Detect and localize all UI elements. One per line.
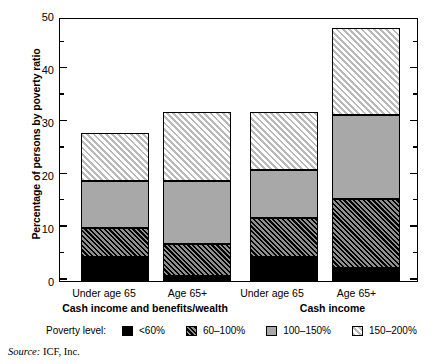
bar-segment-100-150	[332, 115, 400, 200]
bar-segment-under-60	[163, 276, 231, 281]
y-tick-minor-right-25	[413, 146, 417, 147]
y-tick-minor-right-35	[413, 93, 417, 94]
y-tick-minor-15	[60, 199, 64, 200]
x-group-label-cash-income-benefits-wealth: Cash income and benefits/wealth	[35, 302, 255, 314]
y-tick-major-right-40	[410, 67, 417, 68]
source-prefix: Source:	[8, 346, 40, 357]
y-tick-minor-5	[60, 252, 64, 253]
y-tick-major-right-10	[410, 225, 417, 226]
y-tick-major-right-0	[410, 278, 417, 279]
y-tick-major-30	[60, 120, 67, 121]
bar-segment-60-100	[332, 199, 400, 268]
legend-item-100-150[interactable]: 100–150%	[266, 325, 331, 336]
y-tick-label-20: 20	[28, 171, 54, 181]
y-tick-minor-45	[60, 41, 64, 42]
y-tick-major-40	[60, 67, 67, 68]
bar-segment-60-100	[81, 228, 149, 257]
legend-item-60-100[interactable]: 60–100%	[186, 325, 245, 336]
y-tick-label-10: 10	[28, 224, 54, 234]
x-tick-label-group2-under65: Under age 65	[222, 287, 322, 299]
y-tick-label-50: 50	[28, 12, 54, 22]
source-text: ICF, Inc.	[40, 346, 79, 357]
y-tick-minor-35	[60, 93, 64, 94]
legend-swatch-icon-100-150	[266, 326, 277, 336]
bar-segment-100-150	[250, 170, 318, 218]
legend: Poverty level: <60% 60–100% 100–150% 150…	[46, 325, 436, 336]
bar-group1-under65	[81, 133, 149, 281]
y-tick-label-0: 0	[28, 277, 54, 287]
source-note: Source: ICF, Inc.	[8, 346, 80, 357]
legend-title: Poverty level:	[46, 325, 106, 336]
bar-segment-100-150	[81, 181, 149, 229]
bar-segment-under-60	[332, 268, 400, 281]
bar-group2-under65	[250, 112, 318, 281]
legend-swatch-icon-60-100	[186, 326, 197, 336]
legend-label-under-60: <60%	[139, 325, 165, 336]
y-tick-minor-right-45	[413, 41, 417, 42]
bar-segment-60-100	[163, 244, 231, 276]
legend-swatch-icon-under-60	[122, 326, 133, 336]
y-tick-major-20	[60, 173, 67, 174]
y-tick-minor-25	[60, 146, 64, 147]
x-tick-label-group1-65plus: Age 65+	[140, 287, 235, 299]
bar-segment-100-150	[163, 181, 231, 244]
x-group-label-cash-income: Cash income	[240, 302, 425, 314]
legend-label-60-100: 60–100%	[203, 325, 245, 336]
y-tick-major-right-30	[410, 120, 417, 121]
y-tick-label-40: 40	[28, 65, 54, 75]
legend-label-150-200: 150–200%	[369, 325, 417, 336]
legend-item-under-60[interactable]: <60%	[122, 325, 165, 336]
x-tick-label-group2-65plus: Age 65+	[309, 287, 404, 299]
bar-segment-150-200	[81, 133, 149, 181]
y-tick-major-right-20	[410, 173, 417, 174]
bar-segment-under-60	[250, 257, 318, 281]
y-tick-minor-right-5	[413, 252, 417, 253]
legend-label-100-150: 100–150%	[283, 325, 331, 336]
plot-area	[59, 18, 418, 282]
y-tick-minor-right-15	[413, 199, 417, 200]
bar-segment-150-200	[163, 112, 231, 181]
y-tick-label-30: 30	[28, 118, 54, 128]
bar-group2-65plus	[332, 28, 400, 281]
chart-figure: Percentage of persons by poverty ratio 0…	[0, 0, 440, 364]
bar-segment-150-200	[332, 28, 400, 115]
y-tick-major-10	[60, 225, 67, 226]
y-tick-major-0	[60, 278, 67, 279]
x-tick-label-group1-under65: Under age 65	[54, 287, 154, 299]
bar-segment-under-60	[81, 257, 149, 281]
bar-group1-65plus	[163, 112, 231, 281]
legend-item-150-200[interactable]: 150–200%	[352, 325, 417, 336]
legend-swatch-icon-150-200	[352, 326, 363, 336]
bar-segment-150-200	[250, 112, 318, 170]
bar-segment-60-100	[250, 218, 318, 258]
